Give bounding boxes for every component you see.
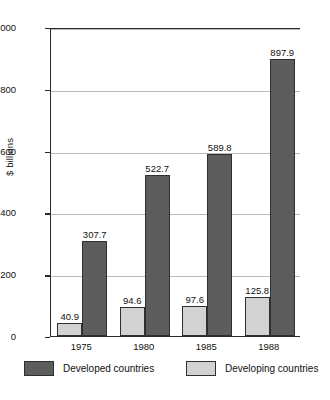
legend-entry[interactable]: Developed countries xyxy=(24,358,154,378)
y-axis-tick-mark xyxy=(45,337,50,338)
y-axis-tick-label: 600 xyxy=(0,147,16,157)
bar-value-label: 125.8 xyxy=(245,286,269,296)
bar-group: 94.6522.7 xyxy=(114,29,177,336)
x-axis-tick-label: 1975 xyxy=(71,341,92,352)
bar-group: 97.6589.8 xyxy=(176,29,239,336)
legend-entry[interactable]: Developing countries xyxy=(186,358,318,378)
y-axis-tick-label: 400 xyxy=(0,208,16,218)
bar-value-label: 589.8 xyxy=(208,143,232,153)
bar-value-label: 522.7 xyxy=(145,164,169,174)
bar-developed[interactable]: 897.9 xyxy=(270,59,295,336)
bar-value-label: 307.7 xyxy=(83,230,107,240)
y-axis-tick-label: 200 xyxy=(0,270,16,280)
plot-area: 40.9307.794.6522.797.6589.8125.8897.9 xyxy=(50,28,300,337)
legend-label: Developed countries xyxy=(63,363,154,374)
bar-developed[interactable]: 307.7 xyxy=(82,241,107,336)
bar-group: 40.9307.7 xyxy=(51,29,114,336)
bar-developing[interactable]: 125.8 xyxy=(245,297,270,336)
bar-developing[interactable]: 97.6 xyxy=(182,306,207,336)
x-axis-tick-labels: 1975198019851988 xyxy=(50,341,300,357)
bars-layer: 40.9307.794.6522.797.6589.8125.8897.9 xyxy=(51,29,300,336)
legend-label: Developing countries xyxy=(225,363,318,374)
bar-developed[interactable]: 589.8 xyxy=(207,154,232,336)
bar-group: 125.8897.9 xyxy=(239,29,302,336)
bar-value-label: 94.6 xyxy=(123,296,142,306)
bar-chart: $ billions 02004006008001,000 40.9307.79… xyxy=(0,0,330,400)
bar-developing[interactable]: 40.9 xyxy=(57,323,82,336)
bar-value-label: 97.6 xyxy=(186,295,205,305)
x-axis-tick-label: 1988 xyxy=(258,341,279,352)
bar-value-label: 897.9 xyxy=(270,48,294,58)
x-axis-tick-label: 1985 xyxy=(196,341,217,352)
y-axis-tick-label: 1,000 xyxy=(0,23,16,33)
bar-developed[interactable]: 522.7 xyxy=(145,175,170,337)
bar-value-label: 40.9 xyxy=(61,312,80,322)
legend-swatch-developed xyxy=(24,361,54,376)
x-axis-tick-label: 1980 xyxy=(133,341,154,352)
y-axis-tick-labels: 02004006008001,000 xyxy=(0,0,50,400)
y-axis-tick-label: 800 xyxy=(0,85,16,95)
legend-swatch-developing xyxy=(186,361,216,376)
y-axis-tick-label: 0 xyxy=(0,332,16,342)
bar-developing[interactable]: 94.6 xyxy=(120,307,145,336)
chart-legend: Developed countriesDeveloping countries xyxy=(0,358,330,380)
